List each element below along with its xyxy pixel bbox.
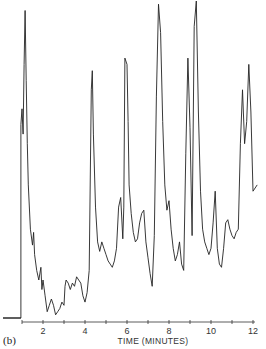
x-tick-label: 12 — [248, 326, 258, 336]
chromatogram-trace — [3, 1, 257, 318]
chromatogram-chart: 24681012 TIME (MINUTES) (b) — [0, 0, 266, 349]
x-tick-label: 4 — [82, 326, 87, 336]
x-axis-title: TIME (MINUTES) — [118, 336, 189, 346]
panel-label: (b) — [3, 334, 16, 347]
x-tick-label: 6 — [124, 326, 129, 336]
x-tick-label: 8 — [166, 326, 171, 336]
x-axis-tick-labels: 24681012 — [40, 326, 258, 336]
x-tick-label: 2 — [40, 326, 45, 336]
x-tick-label: 10 — [206, 326, 216, 336]
